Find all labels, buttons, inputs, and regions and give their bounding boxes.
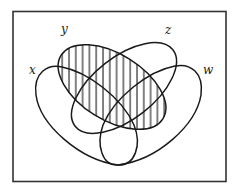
- set-label-w: w: [203, 64, 213, 76]
- venn-diagram: [0, 0, 239, 192]
- set-label-z: z: [165, 24, 171, 36]
- set-label-y: y: [61, 23, 68, 35]
- set-label-x: x: [29, 64, 36, 76]
- set-y-hatching: [40, 20, 190, 160]
